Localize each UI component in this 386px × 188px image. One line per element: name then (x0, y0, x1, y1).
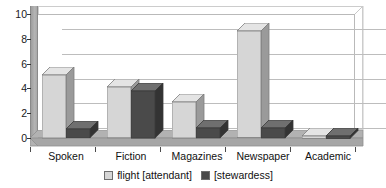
legend-swatch-flight-attendant (104, 171, 113, 180)
y-tick-label-6: 6 (1, 59, 27, 69)
gridline-4 (62, 103, 386, 104)
legend-label-flight-attendant: flight [attendant] (117, 169, 192, 181)
y-tick-label-8: 8 (1, 34, 27, 44)
gridline-10 (62, 29, 386, 30)
legend-item-flight-attendant[interactable]: flight [attendant] (104, 169, 192, 181)
y-tick-mark-0 (27, 138, 31, 139)
x-label-fiction: Fiction (116, 150, 147, 163)
gridline-6 (62, 79, 386, 80)
chart-legend: flight [attendant] [stewardess] (0, 167, 377, 183)
y-tick-label-0: 0 (1, 133, 27, 143)
legend-item-stewardess[interactable]: [stewardess] (201, 169, 273, 181)
y-tick-mark-6 (27, 64, 31, 65)
y-tick-mark-4 (27, 88, 31, 89)
y-tick-label-10: 10 (1, 9, 27, 19)
gridline-8 (62, 54, 386, 55)
y-tick-mark-2 (27, 113, 31, 114)
x-label-newspaper: Newspaper (236, 150, 289, 163)
y-axis-wall (30, 6, 38, 138)
chart-floor (30, 130, 364, 147)
x-label-academic: Academic (305, 150, 351, 163)
y-tick-label-2: 2 (1, 108, 27, 118)
plot-area (30, 14, 355, 138)
x-label-spoken: Spoken (48, 150, 84, 163)
legend-label-stewardess: [stewardess] (214, 169, 273, 181)
x-label-magazines: Magazines (172, 150, 223, 163)
y-tick-mark-8 (27, 39, 31, 40)
y-tick-mark-10 (27, 14, 31, 15)
x-axis-labels: Spoken Fiction Magazines Newspaper Acade… (0, 150, 377, 166)
legend-swatch-stewardess (201, 171, 210, 180)
y-tick-label-4: 4 (1, 83, 27, 93)
